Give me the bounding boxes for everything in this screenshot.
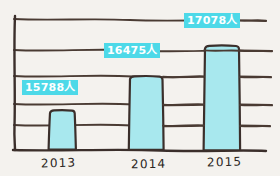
gridline-4-over-bar-2015 (204, 50, 272, 51)
x-axis-label-2013: 2013 (41, 156, 77, 171)
x-axis-label-2015: 2015 (207, 155, 243, 170)
bar-2014[interactable] (129, 76, 164, 150)
y-axis-line (14, 16, 15, 150)
bar-2013-shape[interactable] (49, 110, 76, 149)
bar-2015[interactable] (204, 46, 241, 151)
value-badge-2014: 16475人 (104, 43, 160, 58)
bar-2015-shape[interactable] (204, 46, 241, 151)
value-badge-2013: 15788人 (22, 80, 78, 95)
bar-2014-shape[interactable] (129, 76, 164, 150)
x-axis-label-2014: 2014 (131, 157, 167, 172)
bar-2013[interactable] (49, 110, 76, 149)
hand-drawn-bar-chart: 15788人 16475人 17078人 2013 2014 2015 (0, 0, 280, 176)
value-badge-2015: 17078人 (184, 13, 240, 28)
